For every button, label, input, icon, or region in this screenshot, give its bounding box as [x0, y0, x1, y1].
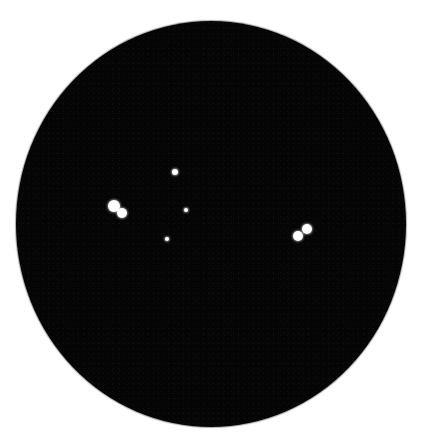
- star-left-b: [117, 208, 127, 218]
- star-right-b: [293, 231, 303, 241]
- star-top: [172, 169, 178, 175]
- star-center: [184, 208, 188, 212]
- star-lower: [165, 237, 169, 241]
- film-grain: [16, 21, 406, 427]
- eyepiece-field: [16, 21, 406, 427]
- star-right-a: [302, 224, 312, 234]
